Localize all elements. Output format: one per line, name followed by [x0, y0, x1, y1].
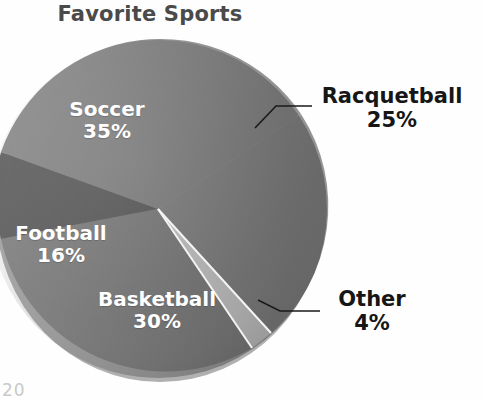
slice-label-soccer-value: 35%: [47, 120, 167, 142]
callout-label-other: Other 4%: [316, 288, 428, 336]
pie-chart-graphic: [0, 0, 482, 399]
callout-label-racquetball-name: Racquetball: [306, 85, 478, 109]
slice-label-soccer-name: Soccer: [47, 98, 167, 120]
callout-label-other-name: Other: [316, 288, 428, 312]
slice-label-football: Football 16%: [0, 222, 124, 267]
slice-label-basketball: Basketball 30%: [74, 288, 240, 333]
callout-label-other-value: 4%: [316, 312, 428, 336]
slice-label-basketball-name: Basketball: [74, 288, 240, 310]
slice-label-basketball-value: 30%: [74, 310, 240, 332]
page-edge-artifact: 20: [2, 380, 26, 399]
callout-label-racquetball: Racquetball 25%: [306, 85, 478, 133]
slice-label-soccer: Soccer 35%: [47, 98, 167, 143]
chart-canvas: Favorite Sports: [0, 0, 482, 399]
slice-label-football-name: Football: [0, 222, 124, 244]
slice-label-football-value: 16%: [0, 244, 124, 266]
callout-label-racquetball-value: 25%: [306, 109, 478, 133]
